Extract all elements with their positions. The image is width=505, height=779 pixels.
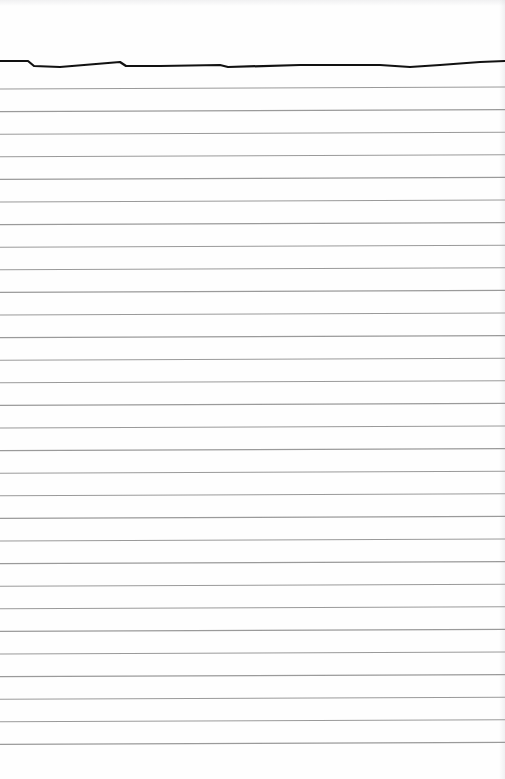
rule-line	[0, 426, 505, 428]
rule-line	[0, 449, 505, 451]
rule-line	[0, 675, 505, 677]
rule-line	[0, 132, 505, 134]
rule-line	[0, 245, 505, 247]
rule-line	[0, 584, 505, 586]
rule-line	[0, 155, 505, 157]
rule-line	[0, 720, 505, 722]
rule-line	[0, 562, 505, 564]
rule-line	[0, 652, 505, 654]
rule-line	[0, 629, 505, 631]
lined-paper-sheet	[0, 0, 505, 779]
rule-line	[0, 697, 505, 699]
rule-line	[0, 607, 505, 609]
rule-line	[0, 110, 505, 112]
rule-line	[0, 87, 505, 89]
rule-line	[0, 268, 505, 270]
rule-line	[0, 358, 505, 360]
rule-line	[0, 471, 505, 473]
rule-line	[0, 336, 505, 338]
ruled-lines	[0, 0, 505, 779]
rule-line	[0, 494, 505, 496]
rule-line	[0, 516, 505, 518]
rule-line	[0, 290, 505, 292]
rule-line	[0, 381, 505, 383]
rule-line	[0, 177, 505, 179]
rule-line	[0, 223, 505, 225]
top-hand-drawn-line	[0, 61, 505, 67]
rule-line	[0, 200, 505, 202]
rule-lines-group	[0, 87, 505, 744]
rule-line	[0, 313, 505, 315]
rule-line	[0, 539, 505, 541]
rule-line	[0, 403, 505, 405]
rule-line	[0, 742, 505, 744]
